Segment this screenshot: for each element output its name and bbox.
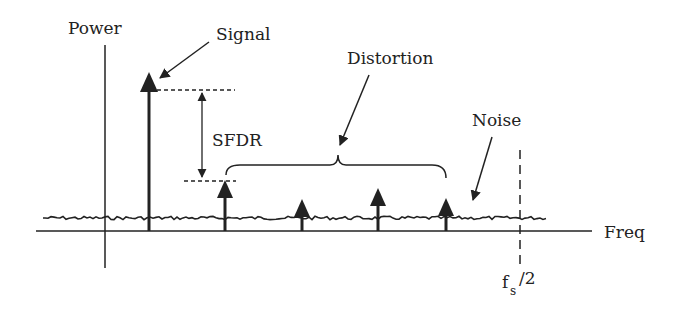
freq-axis-label: Freq xyxy=(604,222,645,242)
distortion-brace xyxy=(226,155,446,178)
signal-label: Signal xyxy=(216,24,271,44)
noise-pointer-arrow xyxy=(473,137,492,200)
arrowhead-icon xyxy=(438,198,454,216)
distortion-tone xyxy=(438,198,454,231)
power-axis-label: Power xyxy=(68,18,123,38)
distortion-tone xyxy=(217,180,233,231)
arrowhead-icon xyxy=(294,199,310,217)
nyquist-label: f s /2 xyxy=(502,268,536,298)
distortion-tone xyxy=(294,199,310,231)
sfdr-label: SFDR xyxy=(212,130,263,150)
arrowhead-icon xyxy=(370,188,386,206)
arrowhead-icon xyxy=(217,180,233,198)
nyquist-label-f: f xyxy=(502,272,510,292)
nyquist-label-suffix: /2 xyxy=(519,268,536,288)
distortion-pointer-arrow xyxy=(340,75,369,145)
signal-tone xyxy=(140,72,158,231)
signal-arrowhead-icon xyxy=(140,72,158,92)
distortion-label: Distortion xyxy=(347,48,433,68)
signal-pointer-arrow xyxy=(160,42,209,78)
noise-label: Noise xyxy=(472,110,521,130)
sfdr-diagram: Power Signal SFDR Distortion Noise Freq … xyxy=(0,0,675,319)
distortion-tone xyxy=(370,188,386,231)
nyquist-label-sub: s xyxy=(510,284,516,298)
